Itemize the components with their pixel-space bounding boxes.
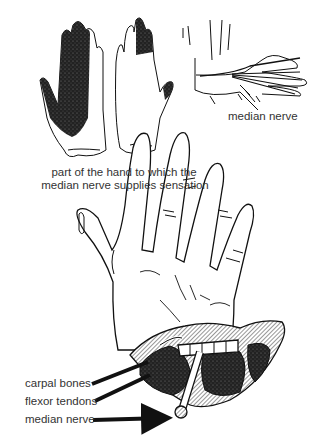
left-hand-palm-shaded xyxy=(40,22,106,157)
median-nerve-diagram: median nerve part of the hand to which t… xyxy=(0,0,328,444)
label-median-nerve: median nerve xyxy=(25,413,95,426)
nerve-path-caption: median nerve xyxy=(228,110,298,123)
sensation-caption-line1: part of the hand to which the xyxy=(24,166,224,179)
label-carpal-bones: carpal bones xyxy=(25,377,91,390)
sensation-caption-line2: median nerve supplies sensation xyxy=(20,179,230,192)
label-flexor-tendons: flexor tendons xyxy=(25,395,97,408)
nerve-path-hand xyxy=(183,20,307,110)
